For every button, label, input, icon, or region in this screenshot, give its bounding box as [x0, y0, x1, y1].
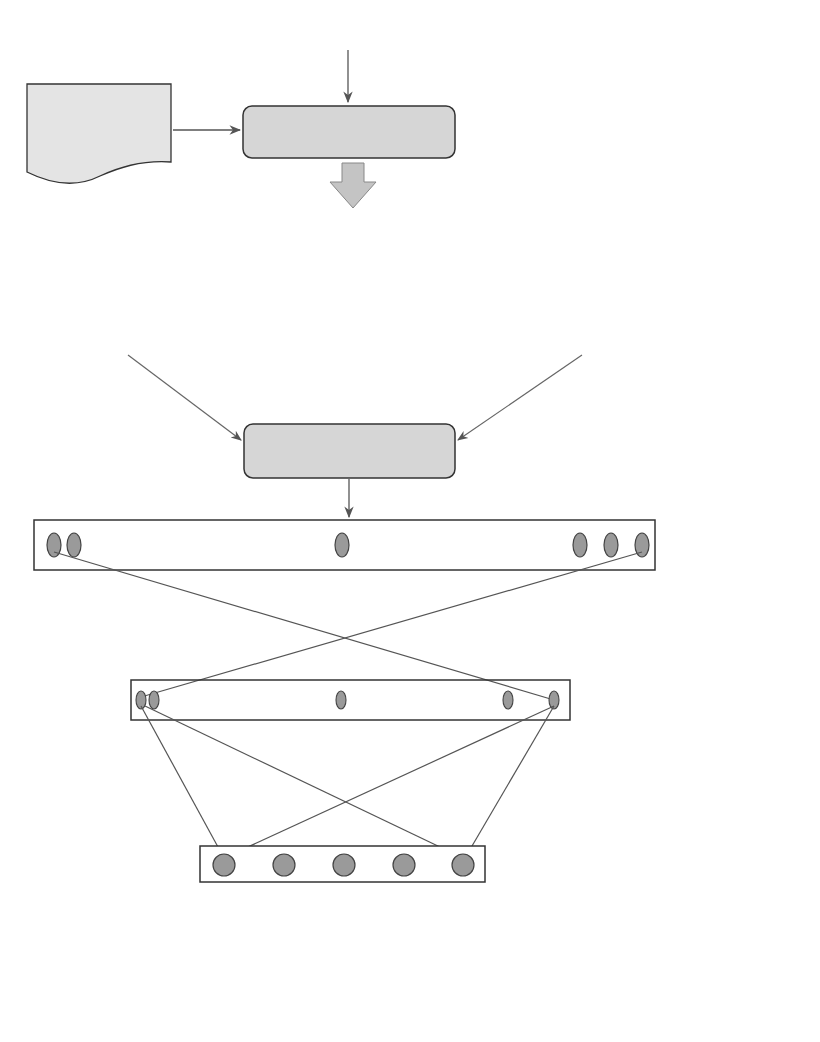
- lookup-table-box: [243, 106, 455, 158]
- neural-network-diagram: [0, 0, 820, 1042]
- concatenate-box: [244, 424, 455, 478]
- input-hidden-connections: [54, 552, 642, 700]
- block-down-arrow-icon: [330, 163, 376, 208]
- word-embeddings-document-icon: [27, 84, 171, 183]
- hidden-layer-nodes: [136, 691, 559, 709]
- hidden-output-connections: [141, 706, 554, 858]
- vector-to-concat-arrow-right: [458, 355, 582, 440]
- vector-to-concat-arrow-left: [128, 355, 241, 440]
